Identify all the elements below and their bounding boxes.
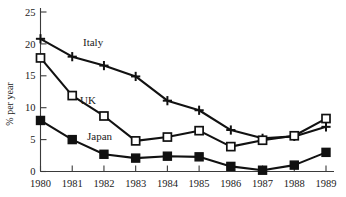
x-tick-label: 1980 xyxy=(30,178,51,189)
y-tick-label: 0 xyxy=(30,166,35,177)
data-point xyxy=(68,92,76,100)
data-point xyxy=(259,136,267,144)
x-tick-label: 1986 xyxy=(220,178,241,189)
x-tick-label: 1985 xyxy=(189,178,210,189)
data-point xyxy=(195,127,203,135)
data-point xyxy=(227,143,235,151)
x-tick-label: 1988 xyxy=(284,178,305,189)
line-chart: % per year 0510152025 198019811982198319… xyxy=(0,0,346,197)
data-point xyxy=(290,132,298,140)
data-point xyxy=(100,112,108,120)
data-point xyxy=(290,161,298,169)
series-line-japan xyxy=(41,120,327,170)
x-tick-label: 1983 xyxy=(125,178,146,189)
x-tick-label: 1987 xyxy=(252,178,273,189)
data-point xyxy=(163,152,171,160)
y-axis-ticks: 0510152025 xyxy=(25,7,47,178)
y-tick-label: 5 xyxy=(30,134,35,145)
data-point xyxy=(37,116,45,124)
x-tick-label: 1989 xyxy=(316,178,337,189)
series-label-uk: UK xyxy=(80,94,96,106)
data-point xyxy=(195,153,203,161)
series-italy xyxy=(36,34,331,143)
data-point xyxy=(322,115,330,123)
series-line-italy xyxy=(41,39,327,139)
data-point xyxy=(37,54,45,62)
y-tick-label: 20 xyxy=(25,39,36,50)
x-tick-label: 1982 xyxy=(93,178,114,189)
data-point xyxy=(163,133,171,141)
y-tick-label: 15 xyxy=(25,70,36,81)
y-tick-label: 10 xyxy=(25,102,36,113)
chart-canvas: % per year 0510152025 198019811982198319… xyxy=(0,0,346,197)
data-point xyxy=(68,136,76,144)
x-tick-label: 1981 xyxy=(62,178,83,189)
data-point xyxy=(322,148,330,156)
data-point xyxy=(132,137,140,145)
y-tick-label: 25 xyxy=(25,7,36,18)
series-japan xyxy=(37,116,331,174)
series-label-japan: Japan xyxy=(87,130,113,142)
y-axis-title: % per year xyxy=(4,82,15,126)
x-tick-label: 1984 xyxy=(157,178,179,189)
data-point xyxy=(100,150,108,158)
series-annotations: ItalyUKJapan xyxy=(80,36,113,142)
data-point xyxy=(132,154,140,162)
data-point xyxy=(259,166,267,174)
y-axis-title-group: % per year xyxy=(4,82,15,126)
series-label-italy: Italy xyxy=(83,36,104,48)
data-point xyxy=(227,162,235,170)
